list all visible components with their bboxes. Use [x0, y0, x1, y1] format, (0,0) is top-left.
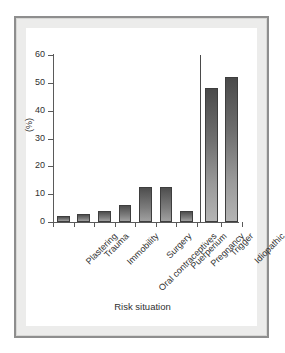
y-tick-label: 60 — [35, 49, 45, 60]
bar — [205, 88, 218, 222]
x-tick — [53, 222, 54, 227]
plot-area — [53, 55, 238, 222]
x-axis-title: Risk situation — [0, 301, 285, 312]
x-tick — [197, 222, 198, 227]
y-tick-label: 30 — [35, 133, 45, 144]
x-tick — [94, 222, 95, 227]
bar — [57, 216, 70, 222]
bar — [160, 187, 173, 222]
x-tick — [221, 222, 222, 227]
x-tick — [135, 222, 136, 227]
y-tick-label: 20 — [35, 160, 45, 171]
x-tick — [74, 222, 75, 227]
y-tick-label: 40 — [35, 105, 45, 116]
group-divider-line — [200, 55, 201, 222]
x-tick — [242, 222, 243, 227]
x-axis-line — [53, 222, 239, 223]
y-tick-label: 0 — [40, 216, 45, 227]
bar — [180, 211, 193, 222]
y-tick-label: 50 — [35, 77, 45, 88]
bar — [119, 205, 132, 222]
x-tick — [115, 222, 116, 227]
figure-root: 0102030405060 (%) PlasteringTraumaImmobi… — [0, 0, 285, 353]
bar — [98, 211, 111, 222]
bar — [139, 187, 152, 222]
x-tick — [156, 222, 157, 227]
x-tick — [176, 222, 177, 227]
bar — [77, 214, 90, 222]
y-axis-title: (%) — [24, 118, 34, 132]
y-tick-label: 10 — [35, 188, 45, 199]
bar — [225, 77, 238, 222]
